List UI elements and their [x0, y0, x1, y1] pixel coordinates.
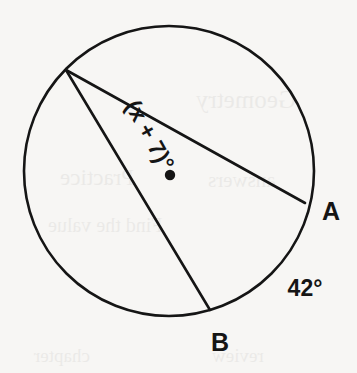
circle-diagram-canvas: A B 42° (x + 7)° — [0, 0, 357, 373]
circle-center-dot — [165, 170, 175, 180]
label-point-b: B — [211, 328, 229, 356]
label-point-a: A — [322, 197, 340, 225]
geometry-figure: Geometry Practice answers Find the value… — [0, 0, 357, 373]
label-inscribed-angle-x-plus-7: (x + 7)° — [120, 95, 180, 174]
label-arc-measure-42: 42° — [288, 275, 323, 301]
chord-to-a — [66, 70, 305, 203]
